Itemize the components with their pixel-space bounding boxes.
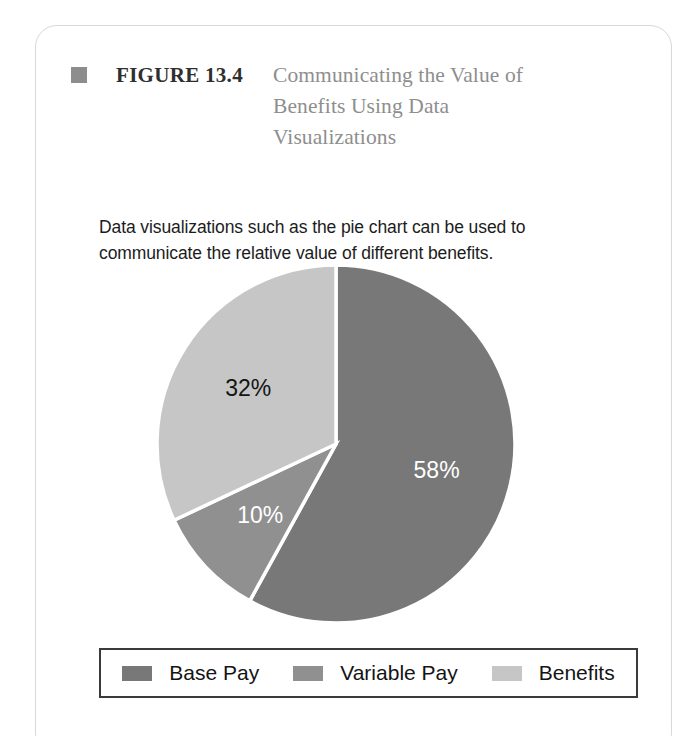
legend-swatch-icon xyxy=(492,666,522,681)
pie-slice-label: 32% xyxy=(225,375,271,401)
legend-label: Base Pay xyxy=(169,661,259,685)
legend-item: Variable Pay xyxy=(293,661,458,685)
figure-card: FIGURE 13.4 Communicating the Value of B… xyxy=(35,25,672,736)
figure-number: FIGURE 13.4 xyxy=(116,60,243,90)
pie-slice xyxy=(250,265,515,623)
filled-square-icon xyxy=(71,67,87,83)
legend-swatch-icon xyxy=(122,666,152,681)
chart-legend: Base PayVariable PayBenefits xyxy=(99,648,638,698)
figure-title: Communicating the Value of Benefits Usin… xyxy=(273,60,523,153)
pie-slice-label: 10% xyxy=(237,502,283,528)
legend-label: Variable Pay xyxy=(340,661,458,685)
pie-chart-svg: 58%10%32% xyxy=(156,264,516,624)
legend-item: Benefits xyxy=(492,661,615,685)
figure-page: FIGURE 13.4 Communicating the Value of B… xyxy=(0,0,688,736)
figure-caption: Data visualizations such as the pie char… xyxy=(99,214,619,266)
legend-item: Base Pay xyxy=(122,661,259,685)
legend-label: Benefits xyxy=(539,661,615,685)
figure-header: FIGURE 13.4 Communicating the Value of B… xyxy=(71,60,651,153)
pie-slice xyxy=(174,444,336,601)
pie-slice-label: 58% xyxy=(414,457,460,483)
legend-swatch-icon xyxy=(293,666,323,681)
pie-slice xyxy=(157,265,336,520)
